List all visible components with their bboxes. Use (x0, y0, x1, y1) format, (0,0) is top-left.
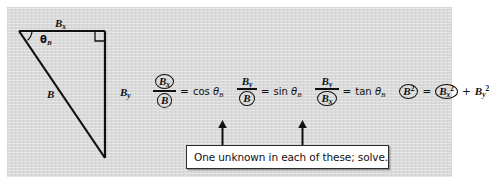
triangle-svg (7, 7, 167, 177)
vector-triangle-diagram: Bx B By θB (7, 7, 167, 177)
tan-theta-b: tan θB (355, 86, 385, 97)
label-b: B (47, 89, 54, 100)
numerator: By (320, 75, 335, 88)
equals-sign: = (180, 85, 189, 97)
fraction-by-over-b: By B (237, 75, 256, 107)
circled-term-bx: Bx (155, 74, 174, 89)
equals-sign: = (343, 85, 352, 97)
numerator: By (240, 75, 255, 88)
tangent-equation: By Bx = tan θB (315, 75, 385, 107)
circled-term-bx: Bx (317, 91, 336, 106)
cosine-equation: Bx B = cos θB (153, 73, 223, 109)
right-angle-marker (95, 31, 105, 41)
term-by-squared: By2 (475, 86, 489, 97)
triangle-hypotenuse-b (19, 31, 105, 158)
sine-equation: By B = sin θB (237, 75, 301, 107)
circled-term-b: B (157, 93, 172, 108)
cos-theta-b: cos θB (193, 86, 223, 97)
denominator: B (155, 92, 174, 109)
angle-arc-theta-b (28, 31, 33, 40)
term-by: By (242, 76, 253, 87)
callout-arrow-2 (297, 120, 308, 146)
callout-arrow-1 (217, 120, 228, 146)
label-theta-b: θB (40, 35, 52, 45)
fraction-by-over-bx: By Bx (315, 75, 338, 107)
equation-row: Bx B = cos θB By B = sin θB By Bx = (153, 69, 489, 113)
denominator: Bx (315, 90, 338, 107)
circled-term-b-squared: B2 (399, 84, 418, 99)
callout-box: One unknown in each of these; solve. (186, 145, 389, 169)
label-by: By (120, 87, 131, 98)
circled-term-b: B (239, 91, 254, 106)
callout-text: One unknown in each of these; solve. (187, 151, 388, 163)
denominator: B (237, 90, 256, 107)
pythagorean-equation: B2 = Bx2 + By2 (399, 84, 489, 99)
equals-sign: = (422, 85, 431, 97)
figure-panel: Bx B By θB Bx B = cos θB By B = sin θB (7, 7, 452, 177)
numerator: Bx (153, 73, 176, 90)
equals-sign: = (261, 85, 270, 97)
label-bx: Bx (55, 18, 66, 29)
plus-sign: + (462, 85, 471, 97)
term-by: By (322, 76, 333, 87)
circled-term-bx-squared: Bx2 (435, 84, 458, 99)
sin-theta-b: sin θB (273, 86, 301, 97)
fraction-bx-over-b: Bx B (153, 73, 176, 109)
